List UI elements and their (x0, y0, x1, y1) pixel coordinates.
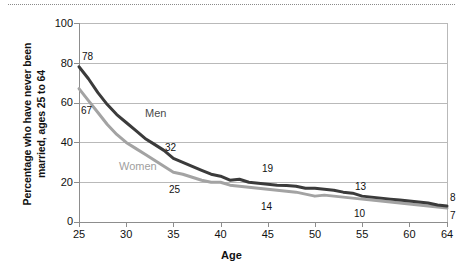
x-tick-label-50: 50 (300, 228, 330, 240)
y-axis-title-line1: Percentage who have never been (20, 24, 34, 224)
x-tick-mark-50 (315, 222, 316, 227)
x-tick-label-55: 55 (347, 228, 377, 240)
x-tick-mark-55 (362, 222, 363, 227)
x-tick-mark-35 (173, 222, 174, 227)
x-tick-mark-45 (268, 222, 269, 227)
x-axis-title: Age (0, 249, 463, 261)
x-tick-mark-60 (409, 222, 410, 227)
point-label-men-45: 19 (262, 163, 273, 174)
point-label-men-35: 32 (165, 142, 176, 153)
x-tick-mark-40 (221, 222, 222, 227)
y-tick-label-40: 40 (45, 136, 73, 148)
y-tick-label-60: 60 (45, 96, 73, 108)
point-label-women-55: 10 (354, 208, 365, 219)
chart-figure: Percentage who have never been married, … (0, 0, 463, 273)
y-tick-label-100: 100 (45, 17, 73, 29)
x-tick-mark-30 (126, 222, 127, 227)
x-tick-label-40: 40 (206, 228, 236, 240)
series-label-men: Men (145, 107, 166, 119)
point-label-women-35: 25 (169, 184, 180, 195)
series-label-women: Women (119, 160, 157, 172)
series-line-women (79, 89, 447, 208)
y-tick-label-20: 20 (45, 176, 73, 188)
y-axis-title-line2: married, ages 25 to 64 (34, 24, 48, 224)
x-tick-label-60: 60 (394, 228, 424, 240)
series-line-men (79, 67, 447, 206)
point-label-women-25: 67 (81, 105, 92, 116)
x-tick-label-64: 64 (432, 228, 462, 240)
x-tick-mark-64 (447, 222, 448, 227)
point-label-men-64: 8 (450, 192, 456, 203)
x-tick-label-35: 35 (158, 228, 188, 240)
top-dotted-rule (8, 4, 455, 5)
plot-right-border (447, 23, 448, 222)
point-label-women-45: 14 (261, 201, 272, 212)
point-label-men-55: 13 (355, 181, 366, 192)
x-tick-mark-25 (79, 222, 80, 227)
y-tick-label-80: 80 (45, 57, 73, 69)
x-axis-line (79, 222, 448, 223)
point-label-women-64: 7 (450, 210, 456, 221)
point-label-men-25: 78 (82, 51, 93, 62)
x-tick-label-25: 25 (64, 228, 94, 240)
y-tick-label-0: 0 (45, 215, 73, 227)
series-plot (79, 23, 447, 222)
y-axis-title: Percentage who have never been married, … (20, 24, 48, 224)
x-tick-label-30: 30 (111, 228, 141, 240)
x-tick-label-45: 45 (253, 228, 283, 240)
plot-area: Men Women (79, 23, 447, 222)
